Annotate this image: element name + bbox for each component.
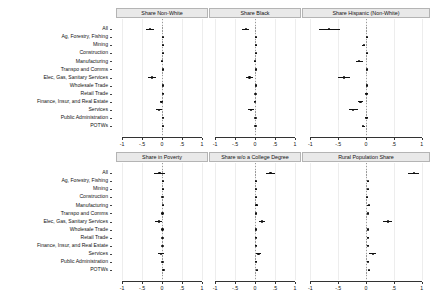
gridline: [142, 163, 143, 280]
x-axis-tick-label: 0: [358, 141, 374, 147]
x-axis-tick: [215, 282, 216, 284]
x-axis-tick: [275, 282, 276, 284]
y-axis-category-label: All: [102, 170, 108, 175]
point-estimate: [367, 212, 369, 214]
gridline: [338, 163, 339, 280]
point-estimate: [368, 204, 370, 206]
x-axis-tick: [255, 138, 256, 140]
point-estimate: [255, 204, 257, 206]
point-estimate: [367, 237, 369, 239]
gridline: [215, 19, 216, 136]
x-axis-tick: [295, 138, 296, 140]
y-axis-tick: [110, 189, 112, 190]
point-estimate: [254, 125, 256, 127]
y-axis-tick: [110, 222, 112, 223]
point-estimate: [158, 109, 160, 111]
x-axis-tick: [202, 138, 203, 140]
point-estimate: [367, 245, 369, 247]
point-estimate: [261, 220, 263, 222]
x-axis-tick: [338, 282, 339, 284]
point-estimate: [367, 188, 369, 190]
y-axis-tick: [110, 118, 112, 119]
y-axis-tick: [110, 53, 112, 54]
point-estimate: [366, 84, 368, 86]
x-axis-tick-label: 0: [247, 285, 263, 291]
point-estimate: [161, 237, 163, 239]
point-estimate: [255, 36, 257, 38]
point-estimate: [367, 228, 369, 230]
x-axis-tick: [295, 282, 296, 284]
x-axis-tick-label: .5: [267, 285, 283, 291]
gridline: [182, 19, 183, 136]
x-axis-tick-label: -.5: [227, 141, 243, 147]
x-axis-tick-label: 1: [287, 285, 303, 291]
gridline: [275, 19, 276, 136]
y-axis-category-label: Wholesale Trade: [70, 83, 108, 88]
point-estimate: [255, 68, 257, 70]
y-axis-tick: [110, 86, 112, 87]
gridline: [202, 163, 203, 280]
y-axis-category-label: Public Administration: [61, 259, 108, 264]
point-estimate: [365, 117, 367, 119]
point-estimate: [160, 101, 162, 103]
y-axis-tick: [110, 230, 112, 231]
gridline: [235, 19, 236, 136]
y-axis-category-label: Ag, Forestry, Fishing: [61, 34, 108, 39]
y-axis-tick: [110, 61, 112, 62]
y-axis-tick: [110, 110, 112, 111]
y-axis-category-label: Retail Trade: [81, 235, 108, 240]
point-estimate: [248, 76, 250, 78]
point-estimate: [162, 188, 164, 190]
point-estimate: [162, 93, 164, 95]
point-estimate: [160, 253, 162, 255]
point-estimate: [254, 101, 256, 103]
y-axis-category-labels: AllAg, Forestry, FishingMiningConstructi…: [0, 19, 112, 136]
x-axis-tick-label: -.5: [227, 285, 243, 291]
panel-title: Share Non-White: [116, 8, 208, 18]
y-axis-category-label: Services: [88, 107, 108, 112]
point-estimate: [245, 28, 247, 30]
y-axis-tick: [110, 173, 112, 174]
point-estimate: [250, 109, 252, 111]
panel-title: Share w/o a College Degree: [209, 152, 301, 162]
point-estimate: [363, 44, 365, 46]
point-estimate: [255, 245, 257, 247]
gridline: [310, 19, 311, 136]
gridline: [394, 163, 395, 280]
point-estimate: [255, 237, 257, 239]
y-axis-category-label: Retail Trade: [81, 91, 108, 96]
x-axis-tick-label: -1: [207, 141, 223, 147]
y-axis-category-label: Finance, Insur, and Real Estate: [37, 243, 108, 248]
y-axis-tick: [110, 126, 112, 127]
y-axis-tick: [110, 181, 112, 182]
y-axis-tick: [110, 254, 112, 255]
x-axis-tick-label: -.5: [134, 285, 150, 291]
x-axis-tick: [310, 138, 311, 140]
x-axis-tick-label: 1: [414, 285, 430, 291]
figure-root: Share Non-White-1-.50.51Share Black-1-.5…: [0, 0, 432, 292]
x-axis-tick: [162, 282, 163, 284]
gridline: [142, 19, 143, 136]
x-axis-tick: [235, 282, 236, 284]
panel-title: Share in Poverty: [116, 152, 208, 162]
gridline: [202, 19, 203, 136]
y-axis-category-label: Elec, Gas, Sanitary Services: [43, 75, 108, 80]
x-axis-tick: [366, 138, 367, 140]
point-estimate: [158, 172, 160, 174]
point-estimate: [366, 68, 368, 70]
x-axis-tick-label: -.5: [330, 285, 346, 291]
x-axis-tick-label: 0: [154, 141, 170, 147]
y-axis-tick: [110, 29, 112, 30]
plot-area: [209, 19, 301, 136]
panel-title: Share Hispanic (Non-White): [302, 8, 430, 18]
plot-area: [116, 19, 208, 136]
gridline: [310, 163, 311, 280]
y-axis-category-label: Mining: [93, 42, 108, 47]
y-axis-tick: [110, 205, 112, 206]
x-axis-tick: [394, 138, 395, 140]
panel-grid: Share Non-White-1-.50.51Share Black-1-.5…: [0, 0, 432, 292]
x-axis-tick-label: 1: [287, 141, 303, 147]
point-estimate: [256, 269, 258, 271]
x-axis-tick: [422, 138, 423, 140]
y-axis-tick: [110, 45, 112, 46]
